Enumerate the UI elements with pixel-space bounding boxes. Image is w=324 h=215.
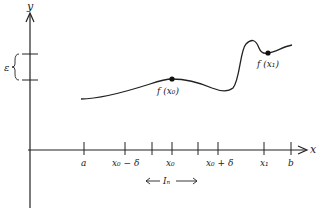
tick-label-x0: x₀ xyxy=(166,158,175,168)
tick-label-x1: x₁ xyxy=(260,158,269,168)
point-f-x0 xyxy=(169,76,174,81)
epsilon-label: ε xyxy=(4,62,9,73)
tick-label-a: a xyxy=(81,158,86,168)
point-f-x1 xyxy=(265,50,270,55)
x-ticks xyxy=(84,142,291,155)
tick-label-b: b xyxy=(288,158,294,168)
interval-right-arrow-icon xyxy=(176,178,197,184)
y-axis-label: y xyxy=(26,0,34,13)
point-label-f-x1: f (x₁) xyxy=(256,59,279,69)
function-curve xyxy=(81,41,292,99)
tick-label-x0-minus-delta: x₀ − δ xyxy=(112,158,139,168)
point-label-f-x0: f (x₀) xyxy=(156,86,179,96)
x-axis-label: x xyxy=(310,143,317,156)
continuity-diagram: y ε x a x₀ − δ x₀ x₀ + δ x₁ b Iₙ f (x₀) … xyxy=(0,0,324,215)
interval-label: Iₙ xyxy=(162,176,171,186)
tick-label-x0-plus-delta: x₀ + δ xyxy=(206,158,233,168)
interval-left-arrow-icon xyxy=(146,178,160,184)
brace-icon xyxy=(12,54,19,80)
